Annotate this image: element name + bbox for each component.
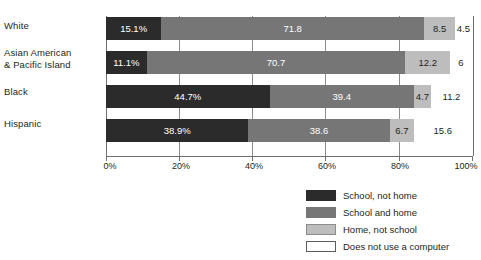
legend-item-does-not-use-a-computer: Does not use a computer	[306, 239, 481, 254]
bar-row: 44.7%39.44.711.2	[106, 85, 472, 108]
bar-segment: 39.4	[270, 85, 414, 108]
bar-segment-value: 6.7	[395, 125, 408, 136]
stacked-bar-chart: White Asian American& Pacific Island Bla…	[0, 0, 481, 170]
bar-segment: 4.7	[414, 85, 431, 108]
x-tick-label-20: 20%	[172, 161, 190, 171]
bar-row: 11.1%70.712.26	[106, 51, 472, 74]
bar-segment: 11.2	[431, 85, 472, 108]
legend-swatch-icon	[306, 207, 336, 218]
category-label-white: White	[4, 20, 102, 32]
bar-segment: 15.1%	[106, 17, 161, 40]
bar-segment: 8.5	[424, 17, 455, 40]
legend-item-label: School, not home	[343, 190, 417, 201]
bar-segment: 38.6	[248, 119, 389, 142]
bar-segment-value: 12.2	[418, 57, 437, 68]
bar-segment-value: 44.7%	[174, 91, 201, 102]
x-tick-label-60: 60%	[318, 161, 336, 171]
bar-segment-value: 15.6	[433, 125, 452, 136]
legend-item-school-not-home: School, not home	[306, 188, 481, 203]
bar-segment: 6	[450, 51, 472, 74]
bar-segment-value: 38.9%	[164, 125, 191, 136]
category-label-hispanic: Hispanic	[4, 118, 102, 130]
category-label-line: & Pacific Island	[4, 59, 71, 70]
bar-segment: 15.6	[414, 119, 471, 142]
bar-segment: 4.5	[455, 17, 471, 40]
bar-segment: 70.7	[147, 51, 406, 74]
bar-segment-value: 70.7	[267, 57, 286, 68]
bar-segment: 71.8	[161, 17, 424, 40]
x-axis-line	[106, 156, 473, 157]
bar-segment: 12.2	[405, 51, 450, 74]
bar-row: 38.9%38.66.715.6	[106, 119, 472, 142]
category-label-line: White	[4, 20, 29, 31]
bar-segment: 11.1%	[106, 51, 147, 74]
bar-segment-value: 11.2	[443, 91, 461, 102]
legend-item-home-not-school: Home, not school	[306, 222, 481, 237]
bar-segment-value: 8.5	[433, 23, 446, 34]
category-label-line: Black	[4, 86, 28, 97]
bar-row: 15.1%71.88.54.5	[106, 17, 472, 40]
legend-item-label: Home, not school	[343, 224, 417, 235]
x-tick-label-80: 80%	[391, 161, 409, 171]
category-label-line: Asian American	[4, 47, 71, 58]
bar-segment: 38.9%	[106, 119, 248, 142]
bar-segment-value: 11.1%	[113, 57, 139, 68]
bar-segment: 6.7	[390, 119, 415, 142]
x-tick-label-40: 40%	[245, 161, 263, 171]
legend-swatch-icon	[306, 224, 336, 235]
x-tick-label-100: 100%	[454, 161, 477, 171]
bar-segment-value: 39.4	[332, 91, 351, 102]
bar-segment-value: 4.7	[416, 91, 429, 102]
legend-item-label: Does not use a computer	[343, 241, 449, 252]
legend-item-label: School and home	[343, 207, 417, 218]
bar-segment-value: 15.1%	[120, 23, 147, 34]
category-label-black: Black	[4, 86, 102, 98]
legend-swatch-icon	[306, 190, 336, 201]
bar-segment-value: 71.8	[283, 23, 302, 34]
legend-swatch-icon	[306, 241, 336, 252]
category-label-asian-american-pacific-island: Asian American& Pacific Island	[4, 47, 102, 70]
bar-segment: 44.7%	[106, 85, 270, 108]
bar-segment-value: 38.6	[310, 125, 329, 136]
bar-segment-value: 6	[458, 57, 463, 68]
x-tick-label-0: 0%	[103, 161, 116, 171]
bar-segment-value: 4.5	[457, 23, 470, 34]
category-label-line: Hispanic	[4, 118, 41, 129]
legend-item-school-and-home: School and home	[306, 205, 481, 220]
legend: School, not home School and home Home, n…	[306, 188, 481, 256]
